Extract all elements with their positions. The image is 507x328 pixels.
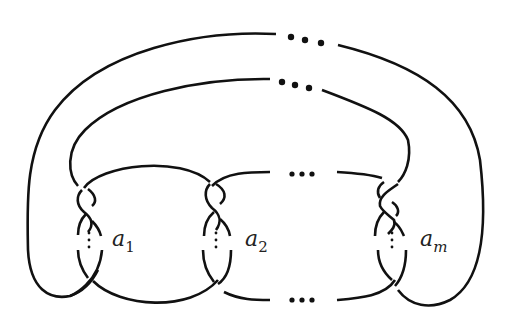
bottom-arc-1-2: [93, 280, 218, 303]
twist-region-1: [70, 189, 102, 296]
outer-band-ellipsis: [288, 34, 324, 46]
bottom-arc-end: [337, 280, 395, 300]
inner-band-ellipsis: [279, 79, 312, 91]
outer-band-right: [338, 45, 483, 305]
inner-band-left: [70, 79, 270, 186]
inner-band-right: [322, 90, 409, 182]
twist-label-a2: a2: [245, 226, 268, 256]
knot-diagram: a1 a2 am: [0, 0, 507, 328]
top-arc-end: [337, 172, 382, 178]
top-arc-1-2: [84, 166, 210, 188]
bottom-arc-2-start: [224, 292, 270, 300]
bottom-ellipsis: [289, 297, 314, 302]
twist-label-a1: a1: [112, 226, 135, 256]
twist-region-2: [203, 184, 231, 284]
twist-region-m: [375, 182, 406, 286]
twist-label-am: am: [420, 226, 447, 256]
top-ellipsis: [289, 171, 314, 176]
top-arc-2-start: [212, 172, 270, 186]
